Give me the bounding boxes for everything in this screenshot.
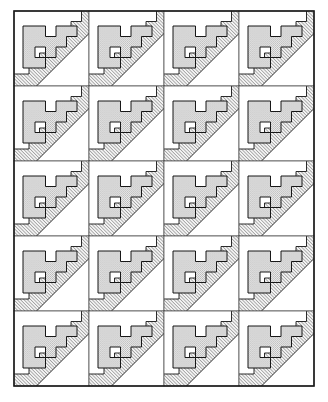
tile-r1c1: [11, 8, 98, 89]
tile-r2c3: [161, 83, 248, 164]
tile-r1c4: [236, 8, 323, 89]
tile-r3c1: [11, 158, 98, 239]
tile-grid: [11, 8, 323, 389]
tile-r4c2: [86, 233, 173, 314]
tile-r1c2: [86, 8, 173, 89]
tile-r5c2: [86, 308, 173, 389]
tile-r1c3: [161, 8, 248, 89]
tile-r3c4: [236, 158, 323, 239]
tile-r5c1: [11, 308, 98, 389]
tile-r2c4: [236, 83, 323, 164]
tile-r4c1: [11, 233, 98, 314]
tile-r2c1: [11, 83, 98, 164]
tile-r4c4: [236, 233, 323, 314]
tessellation-figure: [0, 0, 328, 402]
tile-r4c3: [161, 233, 248, 314]
tile-r3c3: [161, 158, 248, 239]
figure-page: [0, 0, 328, 402]
tile-r5c4: [236, 308, 323, 389]
tile-r3c2: [86, 158, 173, 239]
tile-r5c3: [161, 308, 248, 389]
tile-r2c2: [86, 83, 173, 164]
tessellation-canvas: [0, 0, 328, 402]
